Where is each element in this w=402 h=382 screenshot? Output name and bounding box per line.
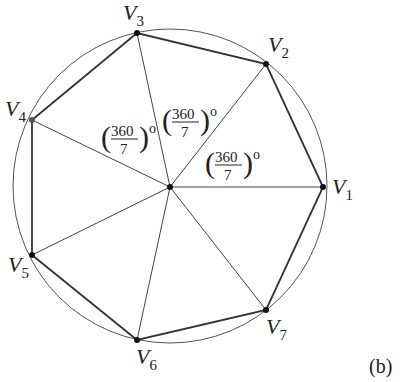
label-v6: V6	[136, 344, 157, 373]
svg-text:7: 7	[120, 141, 128, 157]
svg-text:o: o	[210, 104, 217, 119]
svg-text:o: o	[149, 121, 156, 136]
svg-text:(: (	[101, 120, 111, 154]
label-v5: V5	[8, 252, 29, 281]
angle-label-3: ( 360 7 ) o	[205, 146, 260, 183]
center-point	[167, 184, 173, 190]
angle-label-2: ( 360 7 ) o	[162, 103, 217, 140]
svg-text:360: 360	[215, 149, 238, 165]
svg-text:): )	[139, 120, 149, 154]
label-v7: V7	[266, 314, 287, 343]
label-v2: V2	[268, 32, 289, 61]
svg-text:(: (	[205, 146, 215, 180]
svg-text:7: 7	[181, 124, 189, 140]
heptagon-diagram: V1 V2 V3 V4 V5 V6 V7 ( 360 7 ) o ( 360 7…	[0, 0, 402, 382]
svg-text:): )	[243, 146, 253, 180]
label-v1: V1	[332, 174, 353, 203]
svg-text:360: 360	[172, 106, 195, 122]
radii	[32, 33, 323, 340]
svg-text:(: (	[162, 103, 172, 137]
svg-text:7: 7	[224, 167, 232, 183]
svg-text:360: 360	[111, 123, 134, 139]
label-v3: V3	[123, 0, 144, 29]
label-v4: V4	[5, 96, 26, 125]
figure-caption: (b)	[369, 355, 392, 378]
angle-label-1: ( 360 7 ) o	[101, 120, 156, 157]
svg-text:o: o	[253, 147, 260, 162]
svg-text:): )	[200, 103, 210, 137]
